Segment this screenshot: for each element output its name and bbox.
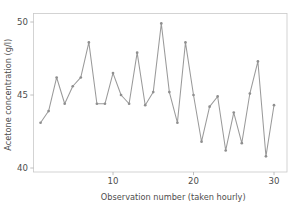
x-tick-label-10: 10 [108, 176, 119, 186]
data-point [88, 41, 91, 44]
y-tick-label-45: 45 [17, 90, 28, 100]
y-tick-label-50: 50 [17, 17, 28, 27]
data-point [168, 91, 171, 94]
data-point [265, 155, 268, 158]
data-point [63, 102, 66, 105]
data-point [136, 51, 139, 54]
x-tick-label-20: 20 [188, 176, 199, 186]
data-point [104, 102, 107, 105]
data-point [249, 92, 252, 95]
data-point [71, 85, 74, 88]
data-point [112, 72, 115, 75]
data-point [257, 60, 260, 63]
data-point [79, 76, 82, 79]
data-point [160, 22, 163, 25]
data-point [128, 102, 131, 105]
data-point [39, 121, 42, 124]
data-point [176, 121, 179, 124]
data-point [216, 95, 219, 98]
data-point [192, 94, 195, 97]
data-point [273, 104, 276, 107]
data-point [208, 105, 211, 108]
data-point [47, 110, 50, 113]
data-point [96, 102, 99, 105]
data-point [152, 91, 155, 94]
data-series [39, 22, 275, 158]
data-point [240, 142, 243, 145]
x-tick-label-30: 30 [269, 176, 280, 186]
chart-figure: 404550102030Observation number (taken ho… [0, 0, 296, 209]
data-point [224, 149, 227, 152]
line-chart: 404550102030Observation number (taken ho… [0, 0, 296, 209]
y-axis-label: Acetone concentration (g/l) [3, 39, 13, 151]
data-point [144, 104, 147, 107]
data-point [200, 140, 203, 143]
data-point [120, 94, 123, 97]
axis-text: 404550102030Observation number (taken ho… [3, 17, 280, 202]
y-tick-label-40: 40 [17, 163, 28, 173]
x-axis-label: Observation number (taken hourly) [101, 192, 246, 202]
data-point [55, 76, 58, 79]
data-point [184, 41, 187, 44]
data-point [232, 111, 235, 114]
series-line-acetone [41, 23, 274, 156]
